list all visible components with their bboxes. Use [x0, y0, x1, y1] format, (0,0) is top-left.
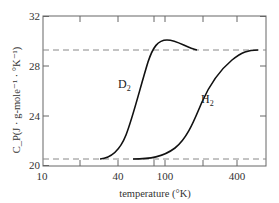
x-ticks-top — [80, 16, 237, 22]
x-tick-label-100: 100 — [157, 170, 174, 182]
y-ticks-left — [43, 17, 49, 166]
y-ticks-right — [260, 17, 266, 117]
x-ticks-bottom — [80, 160, 237, 166]
x-axis-title: temperature (°K) — [119, 188, 191, 200]
y-tick-label-28: 28 — [29, 60, 41, 72]
x-tick-label-400: 400 — [229, 170, 246, 182]
h2-curve — [133, 50, 258, 159]
plot-frame — [43, 16, 266, 166]
h2-label: H2 — [201, 92, 214, 108]
y-tick-label-24: 24 — [29, 110, 41, 122]
x-tick-label-40: 40 — [113, 170, 125, 182]
y-tick-label-32: 32 — [29, 10, 40, 22]
x-tick-label-10: 10 — [37, 170, 49, 182]
d2-label: D2 — [118, 77, 131, 93]
heat-capacity-chart: D2 H2 32 28 24 20 10 40 100 400 temperat… — [0, 0, 279, 203]
y-axis-title: C_P(J · g-mole⁻¹ · °K⁻¹) — [11, 46, 23, 153]
